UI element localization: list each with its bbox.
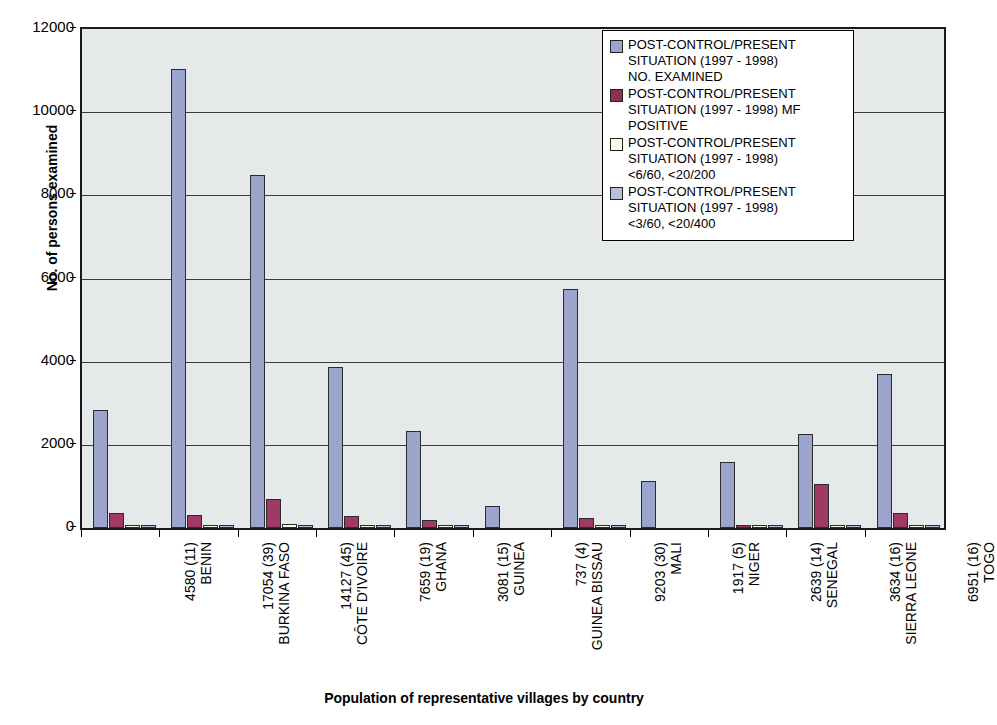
x-label-country: MALI <box>668 542 684 682</box>
x-tick-label: 1917 (5)NIGER <box>730 542 762 682</box>
legend-label: POST-CONTROL/PRESENTSITUATION (1997 - 19… <box>628 184 796 232</box>
legend-label: POST-CONTROL/PRESENTSITUATION (1997 - 19… <box>628 86 800 134</box>
bar <box>798 434 813 528</box>
bar <box>563 289 578 528</box>
x-tick-label: 6951 (16)TOGO <box>965 542 997 682</box>
bar <box>909 525 924 528</box>
x-axis-title: Population of representative villages by… <box>0 690 968 706</box>
bar <box>830 525 845 528</box>
bar <box>298 525 313 528</box>
legend-swatch-icon <box>610 89 623 102</box>
bar <box>485 506 500 528</box>
bar-group <box>395 29 473 528</box>
bar <box>141 525 156 528</box>
bar <box>219 525 234 528</box>
chart-legend: POST-CONTROL/PRESENTSITUATION (1997 - 19… <box>602 30 854 241</box>
bar <box>720 462 735 528</box>
x-tick-label: 14127 (45)CÔTE D'IVOIRE <box>338 542 370 682</box>
bar-group <box>474 29 552 528</box>
x-label-population: 6951 (16) <box>965 542 981 682</box>
y-tick-label: 12000 <box>8 19 74 34</box>
x-label-country: GUINEA BISSAU <box>589 542 605 682</box>
x-tick-mark <box>316 530 317 537</box>
bar-group-bars <box>239 29 317 528</box>
bar <box>925 525 940 528</box>
x-label-population: 17054 (39) <box>260 542 276 682</box>
bar <box>454 525 469 528</box>
x-tick-mark <box>159 530 160 537</box>
bar <box>641 481 656 528</box>
x-tick-mark <box>865 530 866 537</box>
legend-label-line: POST-CONTROL/PRESENT <box>628 86 800 102</box>
bar-group <box>160 29 238 528</box>
legend-entry: POST-CONTROL/PRESENTSITUATION (1997 - 19… <box>610 37 846 85</box>
x-tick-mark <box>786 530 787 537</box>
legend-swatch-icon <box>610 138 623 151</box>
y-tick-mark <box>70 193 76 194</box>
x-tick-mark <box>551 530 552 537</box>
y-tick-mark <box>70 443 76 444</box>
x-label-country: CÔTE D'IVOIRE <box>354 542 370 682</box>
bar <box>282 524 297 528</box>
legend-label-line: POST-CONTROL/PRESENT <box>628 135 796 151</box>
x-tick-mark <box>81 530 82 537</box>
bar <box>171 69 186 528</box>
y-tick-mark <box>70 526 76 527</box>
bar-group-bars <box>317 29 395 528</box>
y-tick-mark <box>70 277 76 278</box>
y-tick-label: 8000 <box>8 185 74 200</box>
bar <box>266 499 281 528</box>
x-label-population: 9203 (30) <box>652 542 668 682</box>
x-label-country: BURKINA FASO <box>276 542 292 682</box>
legend-entry: POST-CONTROL/PRESENTSITUATION (1997 - 19… <box>610 184 846 232</box>
bar-group <box>239 29 317 528</box>
x-tick-label: 9203 (30)MALI <box>652 542 684 682</box>
bar <box>752 525 767 528</box>
legend-label-line: SITUATION (1997 - 1998) <box>628 53 796 69</box>
bar <box>406 431 421 528</box>
bar <box>846 525 861 528</box>
legend-label-line: POSITIVE <box>628 118 800 134</box>
x-tick-mark <box>708 530 709 537</box>
bar-group <box>317 29 395 528</box>
legend-label-line: SITUATION (1997 - 1998) <box>628 200 796 216</box>
y-tick-label: 10000 <box>8 102 74 117</box>
bar-group <box>82 29 160 528</box>
bar <box>877 374 892 528</box>
bar-group-bars <box>395 29 473 528</box>
bar <box>893 513 908 528</box>
x-tick-mark <box>473 530 474 537</box>
x-tick-label: 7659 (19)GHANA <box>417 542 449 682</box>
bar-group <box>866 29 944 528</box>
bar <box>250 175 265 528</box>
legend-label-line: NO. EXAMINED <box>628 69 796 85</box>
bar-group-bars <box>474 29 552 528</box>
y-tick-mark <box>70 27 76 28</box>
bar <box>579 518 594 528</box>
bar <box>438 525 453 528</box>
x-tick-label: 3634 (16)SIERRA LEONE <box>887 542 919 682</box>
bar <box>328 367 343 528</box>
y-tick-label: 4000 <box>8 352 74 367</box>
bar <box>360 525 375 528</box>
bar <box>736 525 751 528</box>
legend-entry: POST-CONTROL/PRESENTSITUATION (1997 - 19… <box>610 86 846 134</box>
bar <box>203 525 218 528</box>
bar <box>595 525 610 528</box>
x-tick-mark <box>394 530 395 537</box>
y-tick-mark <box>70 360 76 361</box>
legend-label: POST-CONTROL/PRESENTSITUATION (1997 - 19… <box>628 37 796 85</box>
x-label-country: GUINEA <box>511 542 527 682</box>
legend-entry: POST-CONTROL/PRESENTSITUATION (1997 - 19… <box>610 135 846 183</box>
bar <box>376 525 391 528</box>
x-label-population: 737 (4) <box>573 542 589 682</box>
x-tick-label: 17054 (39)BURKINA FASO <box>260 542 292 682</box>
x-label-population: 4580 (11) <box>182 542 198 682</box>
x-tick-label: 3081 (15)GUINEA <box>495 542 527 682</box>
bar <box>109 513 124 528</box>
legend-label-line: SITUATION (1997 - 1998) MF <box>628 102 800 118</box>
bar <box>768 525 783 528</box>
legend-label-line: SITUATION (1997 - 1998) <box>628 151 796 167</box>
x-label-population: 1917 (5) <box>730 542 746 682</box>
